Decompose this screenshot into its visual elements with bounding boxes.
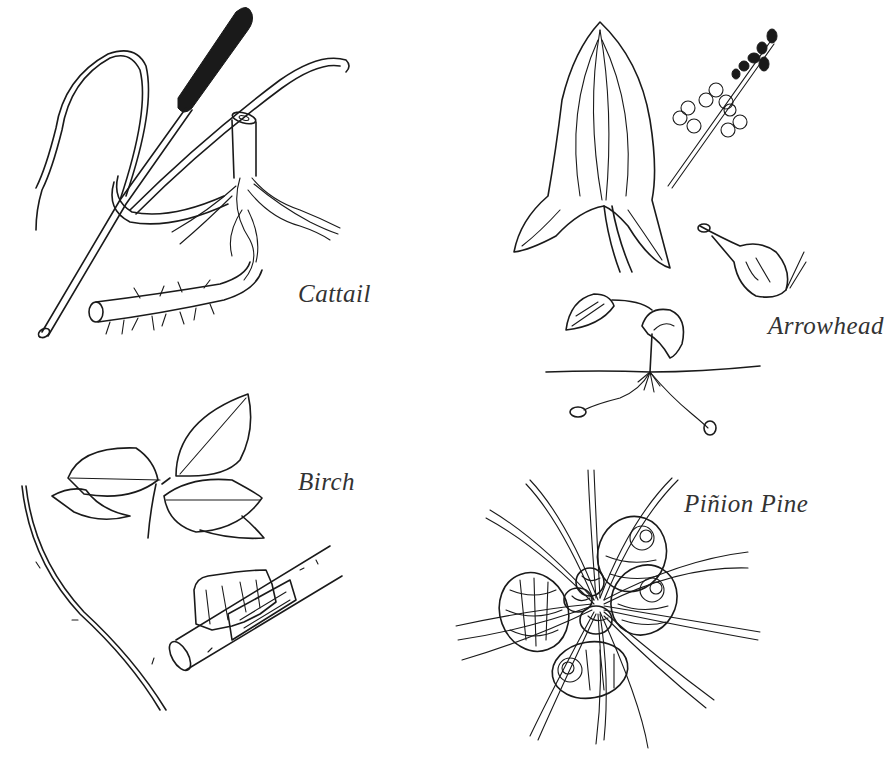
botanical-illustration: Cattail Arrowhead Birch Piñion Pine <box>0 0 896 759</box>
label-birch: Birch <box>298 468 355 496</box>
arrowhead-drawing <box>514 22 806 435</box>
label-cattail: Cattail <box>298 280 371 308</box>
label-arrowhead: Arrowhead <box>768 312 884 340</box>
label-pinion-pine: Piñion Pine <box>684 490 808 518</box>
birch-drawing <box>22 394 342 710</box>
plant-drawings <box>0 0 896 759</box>
